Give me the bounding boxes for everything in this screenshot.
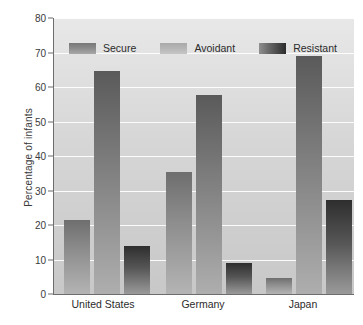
bar-united-states-resistant <box>124 246 150 294</box>
bar-united-states-secure <box>64 220 90 294</box>
y-tick-label: 20 <box>20 220 46 231</box>
gridline <box>54 18 354 19</box>
x-axis-line <box>53 294 354 295</box>
secure-swatch <box>69 43 96 54</box>
legend-entry-avoidant: Avoidant <box>160 42 235 54</box>
y-tick-label: 60 <box>20 82 46 93</box>
bar-chart-figure: Percentage of infants 01020304050607080 … <box>0 0 363 325</box>
avoidant-swatch <box>160 43 187 54</box>
x-tick-label-united-states: United States <box>71 298 134 310</box>
y-tick-label: 30 <box>20 185 46 196</box>
y-tick-label: 80 <box>20 13 46 24</box>
bar-japan-secure <box>266 278 292 294</box>
chart-legend: SecureAvoidantResistant <box>53 37 353 59</box>
x-tick-label-japan: Japan <box>289 298 318 310</box>
bar-germany-secure <box>166 172 192 294</box>
bar-japan-resistant <box>326 200 352 294</box>
legend-label: Resistant <box>293 42 337 54</box>
plot-area <box>53 18 354 294</box>
y-tick-label: 40 <box>20 151 46 162</box>
bar-germany-avoidant <box>196 95 222 294</box>
x-axis-tick-labels: United StatesGermanyJapan <box>53 298 353 314</box>
y-tick-label: 50 <box>20 116 46 127</box>
legend-label: Avoidant <box>194 42 235 54</box>
x-tick-label-germany: Germany <box>181 298 224 310</box>
bar-united-states-avoidant <box>94 71 120 294</box>
legend-entry-resistant: Resistant <box>259 42 337 54</box>
bar-germany-resistant <box>226 263 252 294</box>
y-tick-label: 10 <box>20 254 46 265</box>
y-tick-label: 0 <box>20 289 46 300</box>
bar-japan-avoidant <box>296 56 322 294</box>
resistant-swatch <box>259 43 286 54</box>
figure-caption <box>27 316 357 325</box>
y-axis-tick-labels: 01020304050607080 <box>20 18 46 294</box>
y-tick-label: 70 <box>20 47 46 58</box>
legend-entry-secure: Secure <box>69 42 136 54</box>
legend-label: Secure <box>103 42 136 54</box>
